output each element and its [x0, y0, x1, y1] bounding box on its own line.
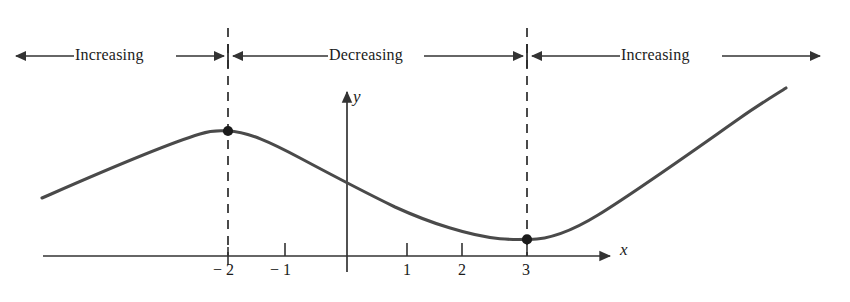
interval-label-decreasing: Decreasing — [329, 47, 403, 63]
x-tick-label-3: 3 — [522, 262, 530, 278]
y-axis-label: y — [353, 88, 361, 105]
relative-maximum-point — [223, 126, 233, 136]
figure-container: Increasing Decreasing Increasing − 2 − 1… — [0, 0, 850, 302]
x-axis-label: x — [620, 241, 628, 258]
relative-minimum-point — [522, 234, 532, 244]
interval-label-increasing-left: Increasing — [75, 47, 144, 63]
interval-label-increasing-right: Increasing — [621, 47, 690, 63]
function-curve — [42, 88, 786, 240]
x-tick-label-1: 1 — [403, 262, 411, 278]
x-tick-label-2: 2 — [458, 262, 466, 278]
x-tick-label-minus1: − 1 — [270, 262, 291, 278]
x-tick-label-minus2: − 2 — [213, 262, 234, 278]
